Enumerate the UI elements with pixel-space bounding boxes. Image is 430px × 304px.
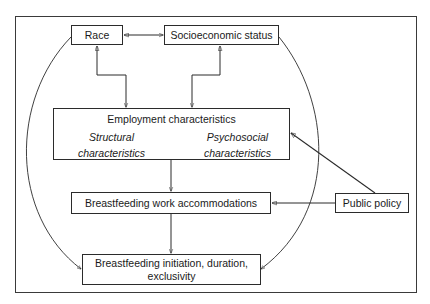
outcome-line1: Breastfeeding initiation, duration, <box>95 257 248 270</box>
outcome-line2: exclusivity <box>148 270 196 283</box>
node-breastfeeding-outcomes: Breastfeeding initiation, duration, excl… <box>82 254 261 285</box>
node-employment-characteristics: Employment characteristics Structural ch… <box>53 108 290 160</box>
node-policy-label: Public policy <box>343 197 401 210</box>
node-breastfeeding-work-accommodations: Breastfeeding work accommodations <box>71 192 271 214</box>
arrow-policy-employment <box>291 133 375 193</box>
node-ses-label: Socioeconomic status <box>170 29 272 42</box>
psychosocial-line1: Psychosocial <box>190 129 285 145</box>
node-accommodations-label: Breastfeeding work accommodations <box>85 197 257 210</box>
node-race: Race <box>71 25 123 45</box>
node-socioeconomic-status: Socioeconomic status <box>164 25 279 45</box>
node-employment-label: Employment characteristics <box>54 113 289 126</box>
arrow-ses-employment <box>192 46 220 107</box>
structural-line1: Structural <box>64 129 159 145</box>
node-race-label: Race <box>85 29 110 42</box>
psychosocial-line2: characteristics <box>190 145 285 161</box>
sub-psychosocial-characteristics: Psychosocial characteristics <box>190 129 285 161</box>
structural-line2: characteristics <box>64 145 159 161</box>
sub-structural-characteristics: Structural characteristics <box>64 129 159 161</box>
arrow-race-employment <box>97 46 126 107</box>
node-public-policy: Public policy <box>335 193 409 213</box>
